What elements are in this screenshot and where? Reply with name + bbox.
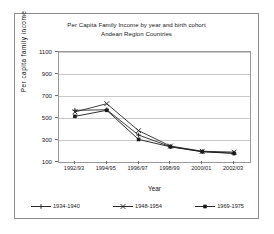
legend-entry[interactable]: 1934-1940 <box>31 203 80 210</box>
x-tick-mark <box>169 161 170 164</box>
x-axis-title: Year <box>58 185 251 192</box>
legend-marker-plus-icon <box>31 203 51 210</box>
legend-label: 1934-1940 <box>53 203 80 209</box>
chart-title-line-1: Per Capita Family Income by year and bir… <box>15 20 258 29</box>
data-point-x <box>121 204 126 209</box>
y-tick-mark <box>55 161 58 162</box>
series-line <box>75 104 234 152</box>
data-point-square <box>232 152 236 156</box>
data-point-x <box>136 128 141 133</box>
x-tick-mark <box>233 161 234 164</box>
series-line <box>75 110 234 153</box>
y-tick-mark <box>55 73 58 74</box>
y-tick-label: 300 <box>30 136 52 143</box>
plot-area <box>58 51 251 163</box>
x-tick-mark <box>138 161 139 164</box>
chart-title: Per Capita Family Income by year and bir… <box>15 20 258 38</box>
data-point-square <box>73 115 77 119</box>
data-point-square <box>169 145 173 149</box>
chart-title-line-2: Andean Region Countries <box>15 29 258 38</box>
x-tick-mark <box>201 161 202 164</box>
y-axis-title: Per capita family income <box>20 0 27 112</box>
y-tick-mark <box>55 95 58 96</box>
y-tick-mark <box>55 117 58 118</box>
y-tick-label: 900 <box>30 70 52 77</box>
chart-figure: Per Capita Family Income by year and bir… <box>14 13 259 219</box>
data-point-square <box>203 204 207 208</box>
series-line <box>75 110 234 153</box>
legend-marker-square-icon <box>195 203 215 210</box>
legend-entry[interactable]: 1969-1975 <box>195 203 244 210</box>
data-point-square <box>200 150 204 154</box>
x-tick-mark <box>74 161 75 164</box>
data-point-square <box>105 109 109 113</box>
legend-label: 1969-1975 <box>217 203 244 209</box>
y-tick-label: 700 <box>30 92 52 99</box>
data-point-plus <box>39 204 44 209</box>
x-tick-mark <box>106 161 107 164</box>
y-tick-label: 500 <box>30 114 52 121</box>
legend-entry[interactable]: 1948-1954 <box>113 203 162 210</box>
series-layer <box>59 52 250 162</box>
legend-marker-x-icon <box>113 203 133 210</box>
y-tick-label: 1100 <box>30 48 52 55</box>
x-tick-label: 2002/03 <box>213 165 253 171</box>
y-tick-label: 100 <box>30 158 52 165</box>
legend-label: 1948-1954 <box>135 203 162 209</box>
chart-legend: 1934-19401948-19541969-1975 <box>25 199 250 213</box>
y-tick-mark <box>55 139 58 140</box>
y-tick-mark <box>55 51 58 52</box>
data-point-square <box>137 138 141 142</box>
